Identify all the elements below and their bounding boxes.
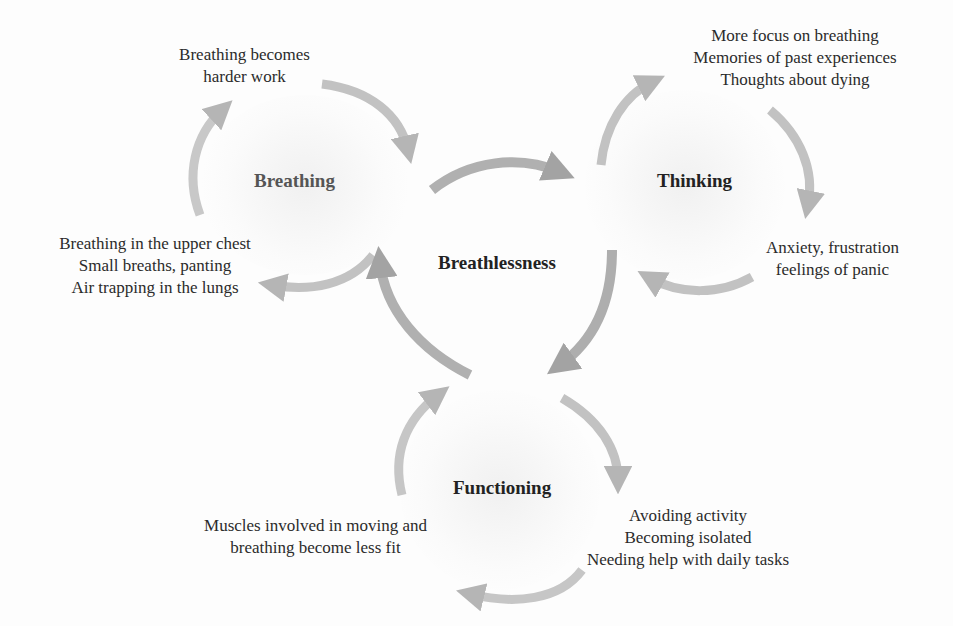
annotation-line: Air trapping in the lungs — [30, 277, 280, 299]
annotation-functioning-right: Avoiding activity Becoming isolated Need… — [563, 505, 813, 571]
annotation-line: Becoming isolated — [563, 527, 813, 549]
annotation-line: Breathing becomes — [162, 44, 327, 66]
annotation-line: harder work — [162, 66, 327, 88]
annotation-breathing-top: Breathing becomes harder work — [162, 44, 327, 88]
arrow-thinking-right — [770, 110, 810, 205]
annotation-line: Muscles involved in moving and — [178, 515, 453, 537]
arrow-functioning-bottom — [470, 570, 582, 599]
annotation-line: Needing help with daily tasks — [563, 549, 813, 571]
annotation-line: Memories of past experiences — [665, 47, 925, 69]
arrow-breathing-left — [193, 110, 222, 215]
arrow-center-to-thinking — [432, 162, 560, 190]
arrow-thinking-bottom — [650, 277, 752, 291]
arrow-center-to-functioning — [560, 250, 612, 365]
annotation-breathing-left: Breathing in the upper chest Small breat… — [30, 233, 280, 299]
arrow-breathing-top — [322, 84, 408, 150]
annotation-thinking-bottom: Anxiety, frustration feelings of panic — [745, 237, 920, 281]
arrow-functioning-left — [399, 395, 438, 495]
annotation-line: More focus on breathing — [665, 25, 925, 47]
arrow-functioning-right — [562, 398, 618, 480]
node-label-thinking: Thinking — [657, 170, 732, 192]
annotation-line: Breathing in the upper chest — [30, 233, 280, 255]
annotation-line: Avoiding activity — [563, 505, 813, 527]
annotation-line: breathing become less fit — [178, 537, 453, 559]
center-label-breathlessness: Breathlessness — [438, 252, 556, 274]
annotation-line: Thoughts about dying — [665, 69, 925, 91]
annotation-line: Anxiety, frustration — [745, 237, 920, 259]
arrow-functioning-to-center — [380, 262, 470, 375]
annotation-line: Small breaths, panting — [30, 255, 280, 277]
annotation-thinking-top: More focus on breathing Memories of past… — [665, 25, 925, 91]
node-label-functioning: Functioning — [453, 477, 551, 499]
node-label-breathing: Breathing — [254, 170, 335, 192]
arrow-thinking-top — [601, 82, 652, 165]
annotation-functioning-left: Muscles involved in moving and breathing… — [178, 515, 453, 559]
arrow-breathing-bottom — [272, 255, 373, 287]
breathlessness-cycle-diagram: Breathlessness Breathing Breathing becom… — [0, 0, 953, 626]
annotation-line: feelings of panic — [745, 259, 920, 281]
